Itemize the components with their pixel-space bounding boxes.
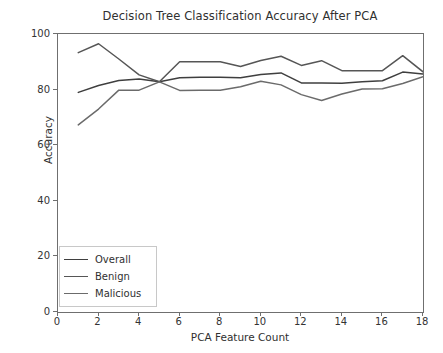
x-axis-label: PCA Feature Count: [57, 331, 423, 343]
x-tick-label: 4: [125, 316, 151, 327]
x-tick-label: 18: [409, 316, 435, 327]
x-tick-label: 10: [247, 316, 273, 327]
legend-swatch-icon: [64, 293, 88, 294]
chart-title: Decision Tree Classification Accuracy Af…: [57, 9, 423, 23]
y-tick-label: 20: [22, 250, 50, 261]
y-tick-label: 60: [22, 139, 50, 150]
legend-swatch-icon: [64, 259, 88, 260]
series-line-malicious: [78, 77, 423, 125]
x-tick-label: 6: [166, 316, 192, 327]
chart-figure: Decision Tree Classification Accuracy Af…: [0, 0, 443, 353]
chart-legend: OverallBenignMalicious: [59, 246, 157, 307]
x-tick-label: 2: [85, 316, 111, 327]
x-tick-label: 12: [287, 316, 313, 327]
x-tick-label: 0: [44, 316, 70, 327]
legend-swatch-icon: [64, 276, 88, 277]
legend-label: Malicious: [95, 288, 141, 299]
y-tick-label: 100: [22, 28, 50, 39]
legend-label: Overall: [95, 254, 131, 265]
x-tick-label: 16: [368, 316, 394, 327]
legend-item-benign[interactable]: Benign: [64, 268, 151, 285]
y-tick-label: 0: [22, 306, 50, 317]
x-tick-label: 14: [328, 316, 354, 327]
legend-item-overall[interactable]: Overall: [64, 251, 151, 268]
y-tick-label: 80: [22, 83, 50, 94]
legend-item-malicious[interactable]: Malicious: [64, 285, 151, 302]
legend-label: Benign: [95, 271, 130, 282]
y-tick-label: 40: [22, 194, 50, 205]
x-tick-label: 8: [206, 316, 232, 327]
